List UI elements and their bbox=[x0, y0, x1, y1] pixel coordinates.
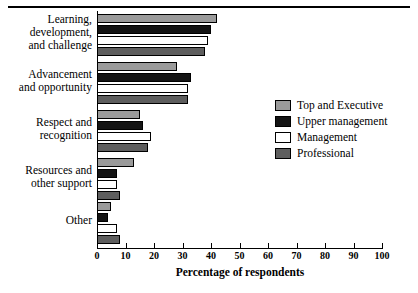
category-label-resources-and-other-support: Resources andother support bbox=[0, 164, 92, 190]
bar-g3-s3 bbox=[97, 191, 120, 200]
legend-item-management: Management bbox=[275, 130, 387, 144]
category-label-respect-and-recognition: Respect andrecognition bbox=[0, 116, 92, 142]
bar-g3-s1 bbox=[97, 169, 117, 178]
legend-swatch-upper-management bbox=[275, 116, 291, 127]
x-tick-60 bbox=[268, 243, 269, 248]
bar-g0-s2 bbox=[97, 36, 208, 45]
x-tick-50 bbox=[240, 243, 241, 248]
x-tick-label-20: 20 bbox=[141, 250, 167, 261]
category-label-advancement-and-opportunity: Advancementand opportunity bbox=[0, 68, 92, 94]
legend-label-professional: Professional bbox=[297, 147, 354, 159]
category-label-other: Other bbox=[0, 214, 92, 227]
x-tick-100 bbox=[382, 243, 383, 248]
bar-g2-s3 bbox=[97, 143, 148, 152]
bar-g4-s3 bbox=[97, 235, 120, 244]
legend-item-upper-management: Upper management bbox=[275, 114, 387, 128]
x-tick-label-40: 40 bbox=[198, 250, 224, 261]
legend-swatch-top-and-executive bbox=[275, 100, 291, 111]
x-tick-label-70: 70 bbox=[284, 250, 310, 261]
x-tick-20 bbox=[154, 243, 155, 248]
bar-g1-s3 bbox=[97, 95, 188, 104]
legend-swatch-management bbox=[275, 132, 291, 143]
bar-g3-s0 bbox=[97, 158, 134, 167]
x-tick-label-60: 60 bbox=[255, 250, 281, 261]
category-label-learning-development-and-challenge: Learning,development,and challenge bbox=[0, 13, 92, 52]
bar-chart: 0102030405060708090100 Learning,developm… bbox=[0, 0, 418, 293]
x-tick-80 bbox=[325, 243, 326, 248]
x-tick-70 bbox=[297, 243, 298, 248]
x-tick-label-50: 50 bbox=[227, 250, 253, 261]
bar-g2-s1 bbox=[97, 121, 143, 130]
legend-label-management: Management bbox=[297, 131, 357, 143]
bar-g4-s2 bbox=[97, 224, 117, 233]
x-tick-40 bbox=[211, 243, 212, 248]
bar-g1-s0 bbox=[97, 62, 177, 71]
bar-g4-s1 bbox=[97, 213, 108, 222]
x-tick-label-30: 30 bbox=[170, 250, 196, 261]
bar-g1-s2 bbox=[97, 84, 188, 93]
legend-label-upper-management: Upper management bbox=[297, 115, 387, 127]
bar-g2-s0 bbox=[97, 110, 140, 119]
legend-item-professional: Professional bbox=[275, 146, 387, 160]
bar-g3-s2 bbox=[97, 180, 117, 189]
bar-g2-s2 bbox=[97, 132, 151, 141]
chart-legend: Top and Executive Upper management Manag… bbox=[275, 98, 387, 162]
legend-swatch-professional bbox=[275, 148, 291, 159]
x-tick-label-10: 10 bbox=[113, 250, 139, 261]
x-tick-label-80: 80 bbox=[312, 250, 338, 261]
bar-g0-s1 bbox=[97, 25, 211, 34]
x-tick-label-0: 0 bbox=[84, 250, 110, 261]
bar-g1-s1 bbox=[97, 73, 191, 82]
x-tick-10 bbox=[126, 243, 127, 248]
x-tick-label-100: 100 bbox=[369, 250, 395, 261]
bar-g4-s0 bbox=[97, 202, 111, 211]
x-axis-line bbox=[97, 248, 383, 249]
legend-item-top-and-executive: Top and Executive bbox=[275, 98, 387, 112]
bar-g0-s3 bbox=[97, 47, 205, 56]
top-rule-divider bbox=[8, 6, 410, 8]
x-tick-30 bbox=[183, 243, 184, 248]
legend-label-top-and-executive: Top and Executive bbox=[297, 99, 383, 111]
x-tick-90 bbox=[354, 243, 355, 248]
x-tick-label-90: 90 bbox=[341, 250, 367, 261]
bar-g0-s0 bbox=[97, 14, 217, 23]
x-axis-title: Percentage of respondents bbox=[97, 266, 383, 278]
